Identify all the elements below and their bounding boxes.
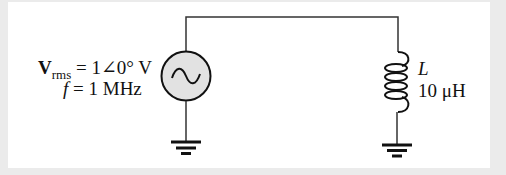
voltage-value: = 1∠0° V (76, 57, 152, 78)
inductor-value-label: 10 μH (418, 81, 466, 100)
inductor-icon (385, 52, 408, 112)
source-frequency-label: f = 1 MHz (63, 79, 142, 98)
top-wire (186, 17, 398, 52)
frequency-symbol: f (63, 78, 68, 99)
source-ground-icon (171, 142, 201, 154)
inductor-symbol-label: L (418, 59, 429, 78)
frequency-value: = 1 MHz (73, 78, 142, 99)
inductor-ground-icon (382, 145, 412, 156)
voltage-symbol: V (38, 57, 52, 78)
ac-source-icon (162, 52, 211, 101)
